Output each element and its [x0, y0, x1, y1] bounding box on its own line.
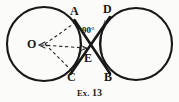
label-point-o: O — [27, 38, 36, 50]
caption-number: 13 — [92, 87, 102, 98]
dashed-axis-O-to-E — [41, 45, 86, 48]
label-point-a: A — [70, 5, 79, 17]
geometry-figure: O A D C B E 90° Ex. 13 — [0, 0, 179, 102]
label-point-d: D — [103, 3, 112, 15]
figure-caption: Ex. 13 — [0, 87, 179, 99]
label-point-c: C — [67, 71, 76, 83]
label-point-b: B — [104, 71, 112, 83]
caption-prefix: Ex. — [77, 88, 90, 98]
label-point-e: E — [84, 52, 92, 64]
dashed-radius-O-to-C — [45, 44, 73, 72]
dashed-radius-O-to-A — [45, 22, 76, 44]
label-angle-90-degrees: 90° — [82, 26, 95, 35]
